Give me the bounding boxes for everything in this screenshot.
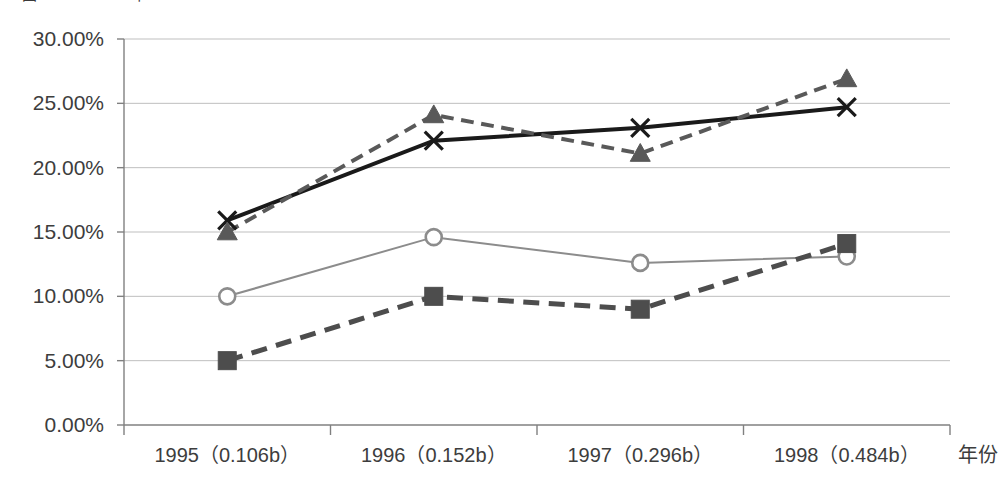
marker-series-square-3: [838, 235, 856, 253]
y-tick-label-30: 30.00%: [0, 28, 104, 49]
x-tick-label-0: 1995（0.106b）: [124, 445, 331, 465]
marker-series-circle-0: [219, 288, 235, 304]
marker-series-circle-1: [426, 229, 442, 245]
x-tick-marks-group: [124, 425, 950, 435]
y-tick-label-25: 25.00%: [0, 92, 104, 113]
marker-series-triangle-1: [424, 105, 444, 123]
marker-series-square-2: [631, 300, 649, 318]
marker-series-triangle-0: [217, 222, 237, 240]
marker-series-square-1: [425, 287, 443, 305]
line-series-square: [227, 244, 847, 361]
y-tick-label-20: 20.00%: [0, 157, 104, 178]
marker-series-square-0: [218, 352, 236, 370]
y-tick-label-15: 15.00%: [0, 221, 104, 242]
y-tick-label-10: 10.00%: [0, 285, 104, 306]
chart-container: 图2 1995—1998年 0.00%5.00%10.00%15.00%20.0…: [0, 0, 998, 480]
y-tick-label-5: 5.00%: [0, 350, 104, 371]
chart-plot-area: [0, 0, 998, 480]
x-tick-label-2: 1997（0.296b）: [537, 445, 744, 465]
line-series-triangle: [227, 79, 847, 232]
line-series-circle: [227, 237, 847, 296]
line-series-x-cross: [227, 107, 847, 220]
x-axis-title: 年份: [958, 445, 998, 465]
x-tick-label-1: 1996（0.152b）: [331, 445, 538, 465]
x-tick-label-3: 1998（0.484b）: [744, 445, 951, 465]
marker-series-circle-2: [632, 255, 648, 271]
marker-series-triangle-3: [837, 69, 857, 87]
y-tick-label-0: 0.00%: [0, 414, 104, 435]
series-lines-group: [227, 79, 847, 361]
